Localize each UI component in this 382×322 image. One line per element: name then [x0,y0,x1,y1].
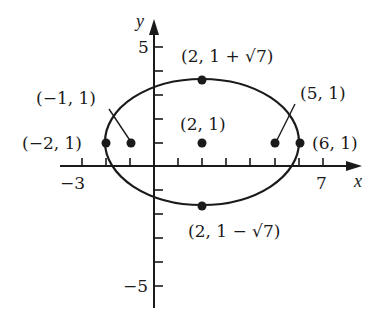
tick-label-7: 7 [316,173,327,193]
point-vertex-top [198,76,207,85]
label-center: (2, 1) [180,114,226,134]
tick-label-5: 5 [138,37,149,57]
tick-label-neg3: −3 [60,173,85,193]
label-vertex-left: (−2, 1) [22,133,82,153]
ellipse-diagram: y x −3 7 5 −5 (2, 1 + √7) (2, 1 − √7) (2… [0,0,382,322]
label-focus-left: (−1, 1) [36,88,96,108]
label-focus-right: (5, 1) [300,83,346,103]
point-focus-left [127,139,136,148]
point-vertex-left [102,139,111,148]
label-vertex-bottom: (2, 1 − √7) [188,221,280,241]
label-vertex-right: (6, 1) [312,133,358,153]
y-axis-arrow-icon [149,19,159,35]
point-center [198,139,207,148]
point-focus-right [271,139,280,148]
leader-focus-left [109,109,131,142]
y-axis [149,19,163,308]
x-axis-label: x [353,171,362,191]
label-vertex-top: (2, 1 + √7) [181,46,273,66]
x-axis-arrow-icon [346,161,362,171]
x-axis [60,158,362,171]
point-vertex-bottom [198,202,207,211]
tick-label-neg5: −5 [123,276,148,296]
y-axis-label: y [134,11,144,31]
point-vertex-right [296,139,305,148]
